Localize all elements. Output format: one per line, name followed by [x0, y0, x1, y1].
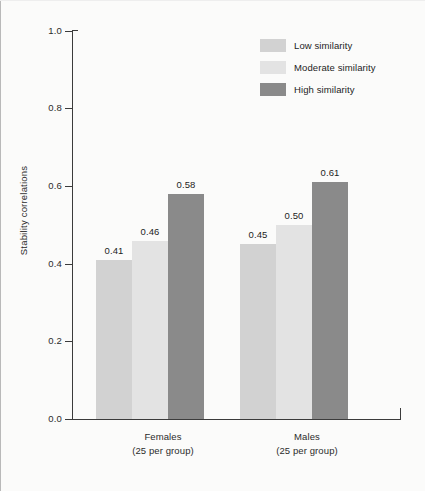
y-tick-0.6 — [65, 186, 72, 187]
bar-females-low[interactable] — [96, 260, 132, 419]
y-tick-label-0.0: 0.0 — [22, 413, 62, 424]
y-tick-1.0 — [65, 31, 72, 32]
y-tick-0.4 — [65, 264, 72, 265]
bar-value-females-moderate: 0.46 — [132, 226, 168, 237]
bar-females-high[interactable] — [168, 194, 204, 419]
bar-chart-figure: 1.0 0.8 0.6 0.4 0.2 0.0 Stability correl… — [0, 0, 425, 491]
y-axis-title: Stability correlations — [18, 131, 29, 291]
legend-label-low-similarity: Low similarity — [294, 40, 352, 51]
legend-label-moderate-similarity: Moderate similarity — [294, 62, 376, 73]
y-tick-0.8 — [65, 108, 72, 109]
x-group-label-males: Males (25 per group) — [252, 430, 362, 458]
legend-item-low-similarity[interactable]: Low similarity — [260, 34, 410, 56]
bar-males-high[interactable] — [312, 182, 348, 419]
bar-value-females-high: 0.58 — [168, 179, 204, 190]
y-tick-label-1.0: 1.0 — [22, 25, 62, 36]
y-tick-0.2 — [65, 341, 72, 342]
x-group-label-females-sub: (25 per group) — [108, 444, 218, 458]
bar-males-moderate[interactable] — [276, 225, 312, 419]
bar-females-moderate[interactable] — [132, 241, 168, 419]
legend-swatch-high-similarity — [260, 83, 286, 96]
x-group-label-females: Females (25 per group) — [108, 430, 218, 458]
y-tick-label-0.2: 0.2 — [22, 335, 62, 346]
y-tick-label-0.8: 0.8 — [22, 102, 62, 113]
x-group-label-females-name: Females — [108, 430, 218, 444]
bar-value-males-moderate: 0.50 — [276, 210, 312, 221]
legend-swatch-moderate-similarity — [260, 61, 286, 74]
x-axis-line — [72, 419, 401, 420]
x-axis-right-cap — [400, 408, 401, 420]
y-tick-0.0 — [65, 419, 72, 420]
bar-value-males-high: 0.61 — [312, 167, 348, 178]
x-group-label-males-sub: (25 per group) — [252, 444, 362, 458]
bar-males-low[interactable] — [240, 244, 276, 419]
legend: Low similarity Moderate similarity High … — [260, 34, 410, 100]
legend-swatch-low-similarity — [260, 39, 286, 52]
x-group-label-males-name: Males — [252, 430, 362, 444]
legend-item-high-similarity[interactable]: High similarity — [260, 78, 410, 100]
bar-value-females-low: 0.41 — [96, 245, 132, 256]
legend-item-moderate-similarity[interactable]: Moderate similarity — [260, 56, 410, 78]
legend-label-high-similarity: High similarity — [294, 84, 355, 95]
bar-value-males-low: 0.45 — [240, 229, 276, 240]
